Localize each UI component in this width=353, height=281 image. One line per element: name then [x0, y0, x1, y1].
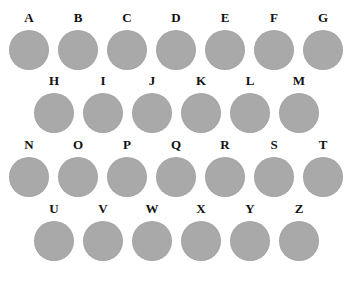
swatch-item: B: [58, 10, 98, 70]
gray-circle: [205, 30, 245, 70]
swatch-label: C: [107, 10, 147, 26]
gray-circle: [279, 93, 319, 133]
swatch-item: N: [9, 137, 49, 197]
swatch-item: J: [132, 73, 172, 133]
gray-circle: [83, 221, 123, 261]
gray-circle: [156, 30, 196, 70]
swatch-label: S: [254, 137, 294, 153]
gray-circle: [181, 93, 221, 133]
swatch-label: U: [34, 201, 74, 217]
swatch-label: A: [9, 10, 49, 26]
swatch-label: M: [279, 73, 319, 89]
gray-circle: [58, 157, 98, 197]
swatch-item: M: [279, 73, 319, 133]
swatch-item: A: [9, 10, 49, 70]
swatch-item: V: [83, 201, 123, 261]
swatch-item: W: [132, 201, 172, 261]
swatch-item: G: [303, 10, 343, 70]
gray-circle: [181, 221, 221, 261]
swatch-item: T: [303, 137, 343, 197]
swatch-label: D: [156, 10, 196, 26]
gray-circle: [83, 93, 123, 133]
gray-circle: [303, 30, 343, 70]
gray-circle: [156, 157, 196, 197]
swatch-item: Y: [230, 201, 270, 261]
swatch-label: I: [83, 73, 123, 89]
gray-circle: [279, 221, 319, 261]
gray-circle: [303, 157, 343, 197]
swatch-item: S: [254, 137, 294, 197]
gray-circle: [205, 157, 245, 197]
gray-circle: [34, 93, 74, 133]
swatch-label: J: [132, 73, 172, 89]
swatch-label: F: [254, 10, 294, 26]
swatch-item: X: [181, 201, 221, 261]
swatch-label: E: [205, 10, 245, 26]
swatch-label: L: [230, 73, 270, 89]
swatch-label: B: [58, 10, 98, 26]
swatch-item: P: [107, 137, 147, 197]
swatch-item: I: [83, 73, 123, 133]
swatch-item: E: [205, 10, 245, 70]
gray-circle: [107, 30, 147, 70]
swatch-item: C: [107, 10, 147, 70]
swatch-item: O: [58, 137, 98, 197]
swatch-label: N: [9, 137, 49, 153]
swatch-label: G: [303, 10, 343, 26]
swatch-label: K: [181, 73, 221, 89]
swatch-item: H: [34, 73, 74, 133]
swatch-item: U: [34, 201, 74, 261]
gray-circle: [58, 30, 98, 70]
swatch-label: X: [181, 201, 221, 217]
swatch-label: R: [205, 137, 245, 153]
swatch-label: Y: [230, 201, 270, 217]
swatch-item: Q: [156, 137, 196, 197]
gray-circle: [132, 93, 172, 133]
swatch-label: W: [132, 201, 172, 217]
swatch-label: P: [107, 137, 147, 153]
swatch-label: O: [58, 137, 98, 153]
gray-circle: [132, 221, 172, 261]
swatch-item: L: [230, 73, 270, 133]
gray-circle: [9, 157, 49, 197]
swatch-label: Z: [279, 201, 319, 217]
swatch-label: T: [303, 137, 343, 153]
gray-circle: [9, 30, 49, 70]
swatch-label: H: [34, 73, 74, 89]
swatch-item: R: [205, 137, 245, 197]
swatch-item: K: [181, 73, 221, 133]
gray-circle: [254, 30, 294, 70]
swatch-label: V: [83, 201, 123, 217]
swatch-item: Z: [279, 201, 319, 261]
swatch-label: Q: [156, 137, 196, 153]
gray-circle: [107, 157, 147, 197]
gray-circle: [230, 221, 270, 261]
gray-circle: [230, 93, 270, 133]
gray-circle: [254, 157, 294, 197]
gray-circle: [34, 221, 74, 261]
swatch-item: D: [156, 10, 196, 70]
swatch-item: F: [254, 10, 294, 70]
